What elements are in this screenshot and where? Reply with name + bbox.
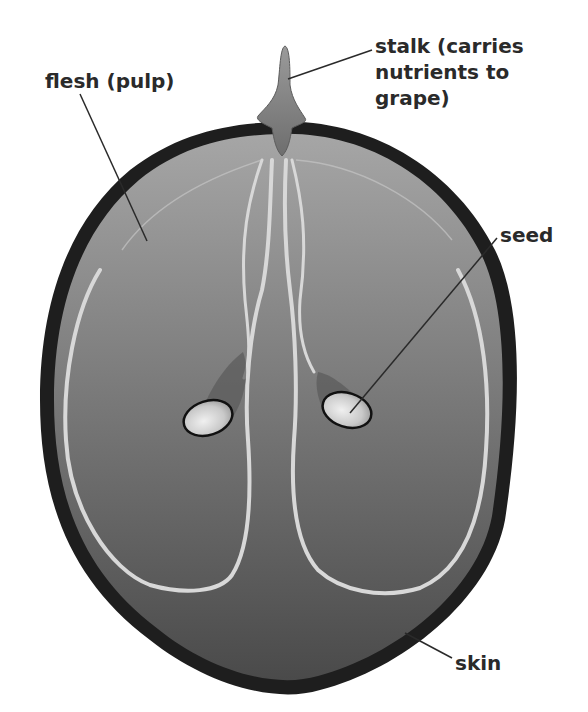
seed-label: seed: [500, 222, 553, 248]
stalk-label: stalk (carries nutrients to grape): [375, 33, 524, 111]
grape-diagram: stalk (carries nutrients to grape) flesh…: [0, 0, 588, 712]
flesh-label: flesh (pulp): [45, 68, 175, 94]
skin-label: skin: [455, 650, 501, 676]
stalk-leader-line: [288, 50, 372, 79]
